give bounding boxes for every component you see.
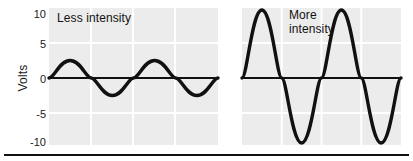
panel-caption-more-intensity: More intensity: [289, 8, 334, 36]
y-tick-10: 10: [14, 9, 46, 20]
panel-caption-less-intensity: Less intensity: [57, 11, 131, 25]
bottom-divider-rule: [4, 154, 409, 156]
y-tick-5: 5: [14, 39, 46, 50]
waveform-plot-less-intensity: [49, 8, 218, 145]
y-tick-minus-5: -5: [14, 109, 46, 120]
y-tick-0: 0: [14, 74, 46, 85]
plot-panel-less-intensity: [49, 8, 218, 145]
waveform-figure: Volts 10 5 0 -5 -10: [0, 0, 413, 161]
y-tick-minus-10: -10: [14, 137, 46, 148]
